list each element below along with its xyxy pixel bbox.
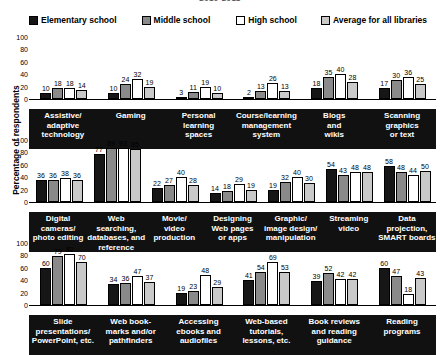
bar xyxy=(347,82,358,99)
category-label-cell: Web-based tutorials, lessons, etc. xyxy=(232,315,300,355)
bar-item: 18 xyxy=(64,37,75,99)
bar-group: 39524242 xyxy=(301,243,369,305)
bar-groups: 3636383677899385222740281418291919324030… xyxy=(30,140,436,202)
bar xyxy=(176,293,187,305)
bar-value-label: 29 xyxy=(235,176,243,183)
bar-value-label: 19 xyxy=(177,285,185,292)
bar xyxy=(408,175,419,202)
category-label: Assistive/ adaptive technology xyxy=(42,111,85,140)
bar-item: 10 xyxy=(108,37,119,99)
bar-item: 85 xyxy=(130,140,141,202)
bar-item: 38 xyxy=(60,140,71,202)
category-label: Course/learning management system xyxy=(236,111,297,140)
bar-value-label: 52 xyxy=(325,265,333,272)
bar-groups: 6079827034364737192348294154695339524242… xyxy=(30,243,436,305)
bar-value-label: 48 xyxy=(363,164,371,171)
bar xyxy=(52,256,63,305)
bar xyxy=(311,88,322,99)
bar-item: 34 xyxy=(108,243,119,305)
y-tick-label: 60 xyxy=(20,58,28,65)
bar-item: 58 xyxy=(384,140,395,202)
category-label: Gaming xyxy=(116,111,146,121)
category-label: Web book- marks and/or pathfinders xyxy=(106,317,156,346)
bar-group: 60798270 xyxy=(30,243,98,305)
bar xyxy=(188,92,199,99)
bar-item: 36 xyxy=(36,140,47,202)
bar-value-label: 19 xyxy=(269,182,277,189)
bar-item: 54 xyxy=(255,243,266,305)
bar-group: 2132613 xyxy=(233,37,301,99)
bar xyxy=(362,172,373,202)
bar xyxy=(292,177,303,202)
bar-item: 13 xyxy=(279,37,290,99)
bar-item: 30 xyxy=(304,140,315,202)
bar-value-label: 11 xyxy=(190,84,197,91)
bar-group: 14182919 xyxy=(204,140,262,202)
bar-value-label: 48 xyxy=(397,164,405,171)
bar-item: 70 xyxy=(76,243,87,305)
bar xyxy=(36,180,47,202)
bar xyxy=(60,178,71,202)
bar-value-label: 93 xyxy=(119,140,127,147)
bar-item: 42 xyxy=(335,243,346,305)
bar xyxy=(164,185,175,202)
bar-item: 53 xyxy=(279,243,290,305)
bar-group: 17303625 xyxy=(368,37,436,99)
bar xyxy=(379,268,390,305)
bar xyxy=(391,80,402,99)
category-label-cell: Slide presentations/ PowerPoint, etc. xyxy=(29,315,97,355)
bar-value-label: 89 xyxy=(107,140,115,147)
bar-value-label: 32 xyxy=(134,71,142,78)
bar-group: 58484450 xyxy=(378,140,436,202)
chart-title: 2010-2011 xyxy=(0,0,440,3)
bar xyxy=(267,262,278,305)
legend-label-middle: Middle school xyxy=(154,15,211,25)
category-label: Digital cameras/ photo editing xyxy=(33,214,84,243)
bar xyxy=(384,166,395,202)
bar-item: 77 xyxy=(94,140,105,202)
bar-item: 32 xyxy=(132,37,143,99)
bar-item: 40 xyxy=(176,140,187,202)
bar-item: 69 xyxy=(267,243,278,305)
bar xyxy=(415,84,426,100)
bar-group: 77899385 xyxy=(88,140,146,202)
bar xyxy=(255,272,266,305)
bar xyxy=(323,273,334,305)
legend-item-average: Average for all libraries xyxy=(321,15,427,25)
bar xyxy=(335,279,346,305)
bar-group: 10181814 xyxy=(30,37,98,99)
bar-value-label: 43 xyxy=(339,167,347,174)
category-label: Book reviews and reading guidance xyxy=(308,317,360,346)
y-axis-ticks: 100806040200 xyxy=(14,243,28,305)
bar xyxy=(279,272,290,305)
y-tick-label: 100 xyxy=(16,34,28,41)
bar-value-label: 18 xyxy=(66,80,74,87)
bar xyxy=(120,283,131,305)
bar-group: 60471843 xyxy=(368,243,436,305)
y-tick-label: 40 xyxy=(20,277,28,284)
bar-item: 28 xyxy=(347,37,358,99)
bar-value-label: 47 xyxy=(392,268,400,275)
bar xyxy=(106,148,117,202)
bar-value-label: 10 xyxy=(42,85,50,92)
bar-value-label: 40 xyxy=(177,169,185,176)
bar xyxy=(210,193,221,202)
bar-value-label: 40 xyxy=(337,66,345,73)
bar-value-label: 58 xyxy=(385,158,393,165)
y-tick-label: 20 xyxy=(20,186,28,193)
bar-item: 36 xyxy=(120,243,131,305)
plot-area-2: 1008060402003636383677899385222740281418… xyxy=(14,140,436,212)
bar xyxy=(222,191,233,202)
bar-item: 60 xyxy=(40,243,51,305)
bar xyxy=(267,83,278,99)
bar-value-label: 36 xyxy=(122,275,130,282)
y-tick-label: 80 xyxy=(20,149,28,156)
x-axis-line xyxy=(29,202,436,203)
bar-item: 18 xyxy=(52,37,63,99)
bar-group: 34364737 xyxy=(98,243,166,305)
bar-value-label: 13 xyxy=(257,83,265,90)
y-tick-label: 40 xyxy=(20,174,28,181)
bar-value-label: 37 xyxy=(146,274,154,281)
bar-item: 14 xyxy=(210,140,221,202)
y-tick-label: 80 xyxy=(20,252,28,259)
